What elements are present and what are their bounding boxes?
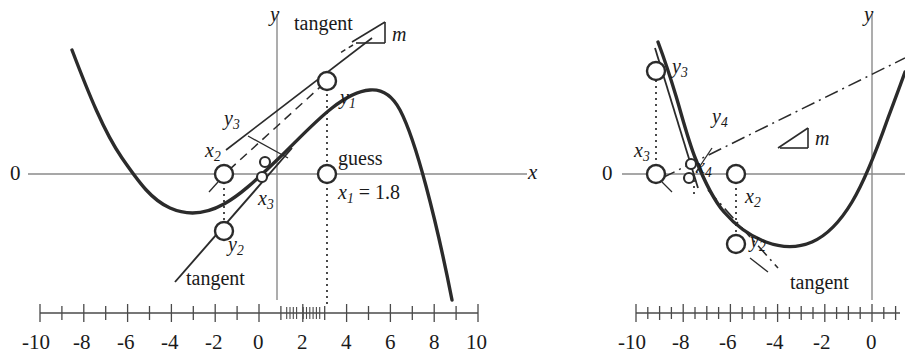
label-x2-right: x2 [745, 186, 761, 209]
label-y2-left: y2 [228, 234, 244, 257]
slope-label-m-right: m [815, 128, 829, 148]
tick-label-left-10: 10 [466, 332, 487, 353]
tick-label-left-5: 0 [253, 332, 264, 353]
point-y3[interactable] [260, 157, 270, 167]
tick-label-left-9: 8 [429, 332, 440, 353]
tick-label-left-7: 4 [341, 332, 352, 353]
x3-leader-tick-right [662, 182, 672, 192]
guess-label: guess [338, 148, 382, 168]
left-panel-graphics [0, 0, 560, 362]
label-y4-right: y4 [712, 106, 728, 129]
origin-label-right: 0 [602, 163, 613, 184]
tick-label-right-2: -6 [719, 332, 737, 353]
point-y3-right[interactable] [647, 62, 665, 80]
tick-label-right-1: -8 [672, 332, 690, 353]
point-x4-right[interactable] [684, 173, 694, 183]
tick-label-left-6: 2 [297, 332, 308, 353]
label-x3-left: x3 [258, 188, 274, 211]
tick-label-left-2: -6 [117, 332, 135, 353]
point-x3[interactable] [257, 172, 267, 182]
y-axis-label-left: y [270, 4, 279, 25]
label-x2-left: x2 [205, 140, 221, 163]
point-x1-guess[interactable] [318, 165, 336, 183]
point-x2[interactable] [215, 165, 233, 183]
tick-label-left-1: -8 [73, 332, 91, 353]
tick-label-left-0: -10 [22, 332, 50, 353]
tangent-line-at-y2-right [708, 190, 778, 268]
tick-label-left-4: -2 [205, 332, 223, 353]
tangent-leader-top [340, 45, 353, 53]
x-axis-label-left: x [528, 162, 537, 183]
newton-method-figure: 0 y x tangent m y1 guess x1 = 1.8 x2 y3 … [0, 0, 905, 362]
tangent-leader-right [750, 258, 768, 272]
origin-label-left: 0 [10, 163, 21, 184]
x2-leader-tick [209, 182, 218, 192]
point-x3-right[interactable] [647, 165, 665, 183]
label-x3-right: x3 [634, 140, 650, 163]
tick-label-right-3: -4 [766, 332, 784, 353]
tangent-label-top: tangent [294, 13, 353, 33]
point-x2-right[interactable] [727, 165, 745, 183]
number-line-ticks [40, 304, 478, 322]
slope-triangle-marker-right [778, 128, 808, 148]
curve-right [658, 42, 905, 247]
point-y4-right[interactable] [686, 159, 696, 169]
left-panel: 0 y x tangent m y1 guess x1 = 1.8 x2 y3 … [0, 0, 560, 362]
label-y3-right: y3 [672, 56, 688, 79]
right-panel-graphics [600, 0, 905, 362]
point-y2-right[interactable] [727, 235, 745, 253]
tick-label-right-4: -2 [813, 332, 831, 353]
tangent-label-right: tangent [790, 272, 849, 292]
y-axis-label-right: y [864, 4, 873, 25]
label-y2-right: y2 [750, 230, 766, 253]
tick-label-right-5: 0 [866, 332, 877, 353]
tick-label-right-0: -10 [618, 332, 646, 353]
slope-label-m-left: m [392, 24, 406, 44]
point-y1[interactable] [318, 72, 336, 90]
tick-label-left-3: -4 [161, 332, 179, 353]
tick-label-left-8: 6 [385, 332, 396, 353]
right-panel: 0 y y3 y4 x3 x4 m x2 y2 tangent -10 -8 -… [600, 0, 905, 362]
label-y3-left: y3 [224, 108, 240, 131]
guess-value-label: x1 = 1.8 [338, 182, 400, 205]
label-y1: y1 [340, 87, 356, 110]
tangent-label-bottom: tangent [186, 268, 245, 288]
label-x4-right: x4 [696, 156, 712, 179]
tangent-line-at-y2 [175, 148, 292, 282]
